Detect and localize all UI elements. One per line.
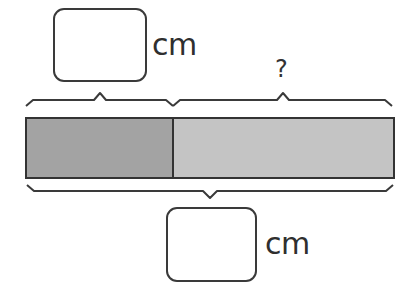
top-brace-known xyxy=(26,93,173,106)
bottom-brace-total xyxy=(27,185,393,198)
bottom-answer-box[interactable] xyxy=(166,207,257,282)
bottom-unit-label: cm xyxy=(265,229,310,259)
bar-known-segment xyxy=(26,118,173,178)
top-brace-unknown xyxy=(173,93,392,106)
bar-unknown-segment xyxy=(173,118,394,178)
